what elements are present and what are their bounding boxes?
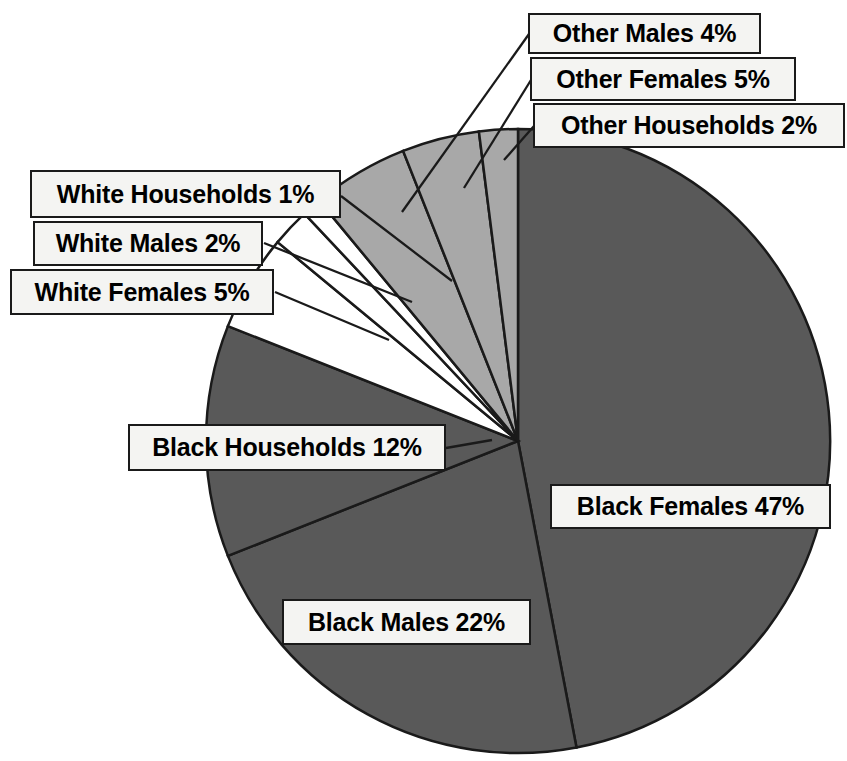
pie-chart-figure: Other Males 4% Other Females 5% Other Ho… [0, 0, 847, 761]
slice-label-other-males-text: Other Males 4% [553, 21, 736, 46]
slice-label-white-households-text: White Households 1% [57, 182, 314, 207]
slice-label-other-males[interactable]: Other Males 4% [528, 13, 761, 54]
slice-label-black-households[interactable]: Black Households 12% [128, 424, 446, 471]
slice-label-black-households-text: Black Households 12% [152, 435, 422, 460]
slice-label-other-females-text: Other Females 5% [556, 67, 770, 92]
slice-label-other-households-text: Other Households 2% [561, 113, 817, 138]
slice-black-females[interactable] [518, 129, 830, 748]
slice-label-white-males[interactable]: White Males 2% [33, 221, 263, 266]
slice-label-black-females[interactable]: Black Females 47% [550, 484, 831, 529]
slice-label-black-males[interactable]: Black Males 22% [282, 599, 531, 645]
slice-label-white-females-text: White Females 5% [35, 280, 250, 305]
slice-label-white-females[interactable]: White Females 5% [10, 269, 274, 315]
slice-label-other-households[interactable]: Other Households 2% [533, 103, 845, 148]
slice-label-black-males-text: Black Males 22% [308, 610, 505, 635]
slice-label-white-households[interactable]: White Households 1% [30, 170, 341, 218]
slice-label-white-males-text: White Males 2% [56, 231, 241, 256]
slice-label-other-females[interactable]: Other Females 5% [530, 57, 796, 101]
slice-label-black-females-text: Black Females 47% [577, 494, 804, 519]
